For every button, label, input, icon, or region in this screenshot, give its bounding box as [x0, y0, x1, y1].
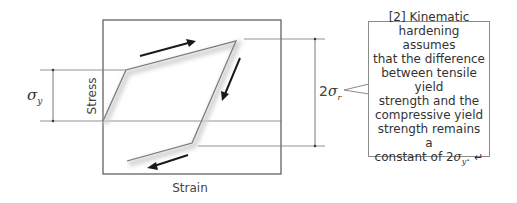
callout-pointer [344, 84, 369, 94]
dimension-tick [52, 120, 54, 122]
callout-box: [2] Kinematic hardening assumes that the… [368, 21, 490, 157]
callout-line: strength remains a [378, 122, 481, 150]
return-icon: ↵ [474, 151, 483, 164]
sigma-y-label: σy [27, 86, 43, 106]
callout-line: between tensile yield [381, 66, 477, 94]
dimension-tick [314, 38, 316, 40]
two-sigma-label: 2σr [319, 83, 342, 102]
callout-line: strength and the [379, 94, 479, 108]
dimension-tick [314, 145, 316, 147]
dimension-tick [52, 69, 54, 71]
y-axis-label: Stress [85, 78, 99, 115]
sigma-symbol: σ [454, 150, 462, 164]
callout-line: constant of 2 [375, 150, 454, 164]
callout-line: that the difference [373, 52, 485, 66]
callout-line: [2] Kinematic [389, 10, 470, 24]
callout-text: [2] Kinematic hardening assumes that the… [373, 10, 485, 169]
callout-line: hardening assumes [399, 24, 460, 52]
period: . [466, 150, 470, 164]
x-axis-label: Strain [172, 181, 208, 195]
callout-line: compressive yield [375, 108, 483, 122]
